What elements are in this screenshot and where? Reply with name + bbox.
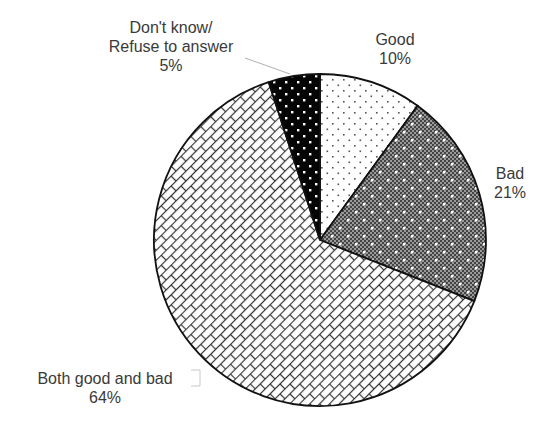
label-bad: Bad 21% bbox=[480, 164, 540, 202]
label-both-pct: 64% bbox=[20, 388, 190, 407]
label-good-pct: 10% bbox=[360, 49, 430, 68]
label-good-name: Good bbox=[360, 30, 430, 49]
label-dont-know-line2: Refuse to answer bbox=[86, 37, 256, 56]
label-both-good-and-bad: Both good and bad 64% bbox=[20, 369, 190, 407]
leader-line-both bbox=[191, 370, 200, 386]
label-dont-know: Don't know/ Refuse to answer 5% bbox=[86, 18, 256, 75]
label-bad-pct: 21% bbox=[480, 183, 540, 202]
label-good: Good 10% bbox=[360, 30, 430, 68]
label-bad-name: Bad bbox=[480, 164, 540, 183]
label-dont-know-line1: Don't know/ bbox=[86, 18, 256, 37]
label-dont-know-pct: 5% bbox=[86, 56, 256, 75]
label-both-name: Both good and bad bbox=[20, 369, 190, 388]
